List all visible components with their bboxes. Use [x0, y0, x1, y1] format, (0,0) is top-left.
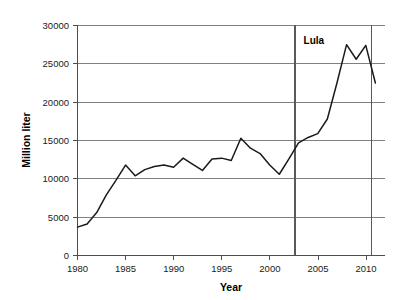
- y-tick-label-0: 0: [64, 250, 69, 261]
- y-tick-label-10000: 10000: [43, 173, 69, 184]
- x-tick-label-1985: 1985: [115, 263, 136, 274]
- x-tick-label-2005: 2005: [307, 263, 328, 274]
- y-axis-title: Million liter: [20, 112, 32, 167]
- y-axis-tick-labels: 30000 25000 20000 15000 10000 5000 0: [43, 20, 69, 261]
- chart-container: 30000 25000 20000 15000 10000 5000 0 198…: [0, 0, 400, 300]
- y-tick-label-25000: 25000: [43, 58, 69, 69]
- y-tick-label-5000: 5000: [48, 212, 69, 223]
- y-axis-ticks: [73, 26, 78, 256]
- series-line-ethanol-production: [78, 45, 376, 227]
- x-tick-label-1980: 1980: [67, 263, 88, 274]
- x-tick-label-1990: 1990: [163, 263, 184, 274]
- x-axis-tick-labels: 1980 1985 1990 1995 2000 2005 2010: [67, 263, 377, 274]
- lula-annotation-label: Lula: [304, 35, 325, 46]
- x-axis-title: Year: [220, 281, 242, 293]
- x-tick-label-1995: 1995: [211, 263, 232, 274]
- y-tick-label-30000: 30000: [43, 20, 69, 31]
- y-tick-label-15000: 15000: [43, 135, 69, 146]
- x-tick-label-2000: 2000: [259, 263, 280, 274]
- x-tick-label-2010: 2010: [356, 263, 377, 274]
- line-chart: 30000 25000 20000 15000 10000 5000 0 198…: [0, 0, 400, 300]
- gridlines: [77, 26, 385, 218]
- x-axis-ticks: [78, 256, 367, 261]
- y-tick-label-20000: 20000: [43, 97, 69, 108]
